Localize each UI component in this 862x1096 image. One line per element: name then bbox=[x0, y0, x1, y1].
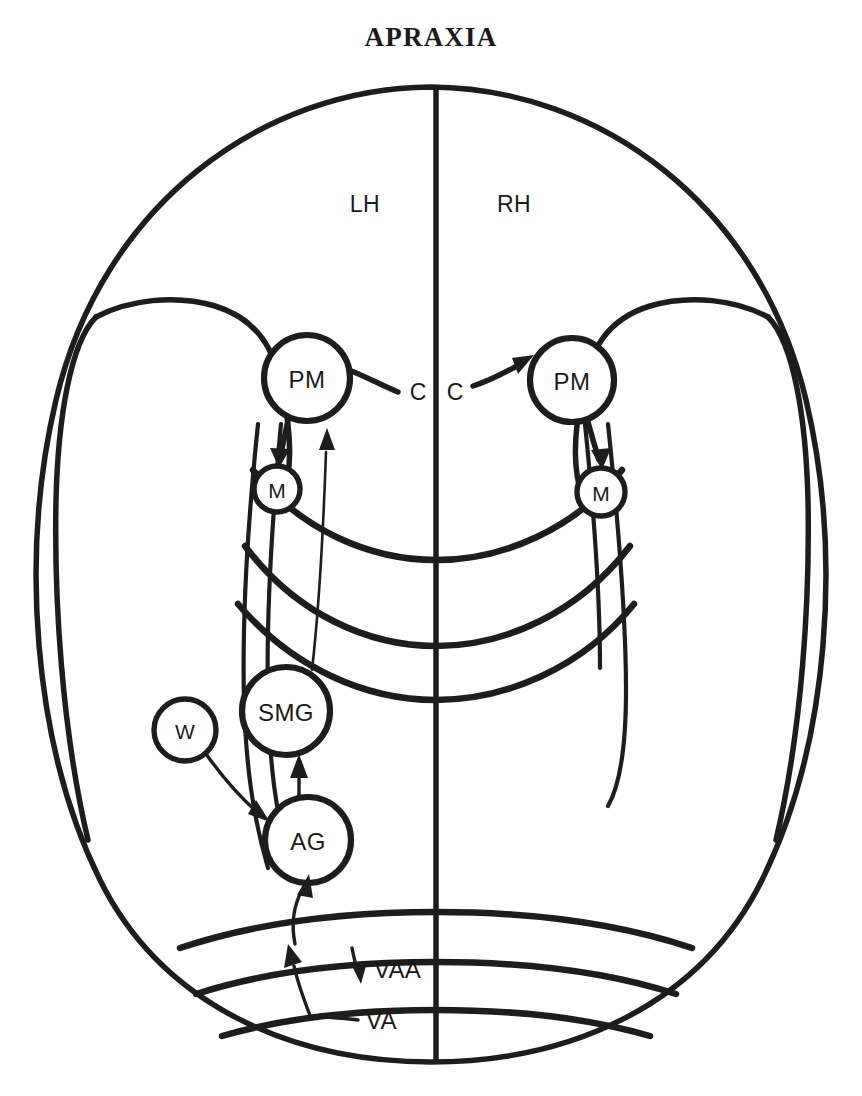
arrowhead-smg-to-pm-left bbox=[319, 428, 335, 450]
figure-title: APRAXIA bbox=[0, 22, 862, 53]
arrowhead-va-to-ag bbox=[284, 944, 302, 968]
node-pm-right-label: PM bbox=[554, 368, 591, 395]
hemisphere-label-right: RH bbox=[497, 191, 531, 217]
left-lateral-contour bbox=[56, 317, 96, 840]
node-pm-left-label: PM bbox=[289, 366, 326, 393]
brain-schematic-svg: PM PM C C M M SMG W bbox=[0, 0, 862, 1096]
corpus-callosum-label-right: C bbox=[447, 379, 464, 405]
brain-outer-outline bbox=[36, 87, 826, 1062]
node-ag-label: AG bbox=[290, 828, 325, 855]
vaa-label: VAA bbox=[374, 956, 421, 983]
node-m-right-label: M bbox=[592, 482, 610, 505]
connector-vaa-band-to-ag bbox=[293, 890, 302, 944]
node-m-left-label: M bbox=[268, 479, 286, 502]
connector-smg-to-pm-left bbox=[312, 452, 326, 670]
connector-pm-left-to-cc bbox=[349, 370, 398, 392]
va-label: VA bbox=[366, 1007, 397, 1034]
corpus-callosum-label-left: C bbox=[410, 379, 427, 405]
va-leader-line bbox=[318, 1016, 358, 1020]
apraxia-figure: APRAXIA PM PM bbox=[0, 0, 862, 1096]
hemisphere-label-left: LH bbox=[350, 191, 380, 217]
node-smg-label: SMG bbox=[258, 699, 314, 726]
connector-va-to-ag bbox=[294, 966, 311, 1018]
node-w-label: W bbox=[175, 720, 195, 743]
arrowhead-vaa-pointer bbox=[351, 962, 367, 984]
